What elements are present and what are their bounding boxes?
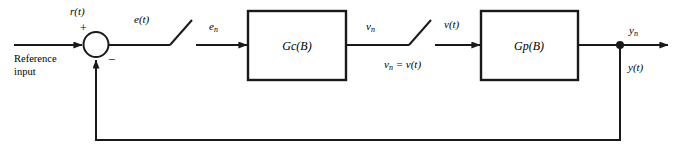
- sampler-switch-control: [409, 20, 431, 45]
- diagram-canvas: [0, 0, 677, 155]
- label-output-sampled: yn: [629, 24, 638, 38]
- label-error-sampled: en: [209, 20, 218, 34]
- label-error-continuous: e(t): [134, 13, 149, 26]
- summing-junction-minus-sign: −: [108, 53, 115, 66]
- summing-junction: [84, 32, 109, 57]
- label-control-continuous: v(t): [444, 18, 459, 31]
- label-control-sampled: vn: [366, 20, 375, 34]
- summing-junction-plus-sign: +: [80, 22, 87, 34]
- sampler-switch-error: [170, 20, 192, 45]
- label-output-continuous: y(t): [628, 61, 643, 74]
- reference-input-line-2: input: [14, 65, 57, 78]
- controller-block-label: Gc(B): [282, 39, 311, 54]
- label-sampler-equality: vn = v(t): [384, 58, 421, 72]
- reference-input-label: Reference input: [14, 52, 57, 79]
- label-reference-signal: r(t): [70, 5, 85, 18]
- plant-block-label: Gp(B): [514, 39, 544, 54]
- block-diagram: r(t) + − Reference input e(t) en Gc(B) v…: [0, 0, 677, 155]
- reference-input-line-1: Reference: [14, 52, 57, 65]
